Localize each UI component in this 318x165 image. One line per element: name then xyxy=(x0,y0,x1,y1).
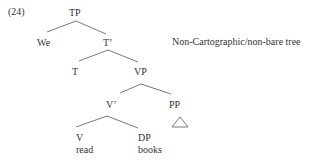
node-t-bar: T’ xyxy=(103,38,112,48)
node-vp: VP xyxy=(134,67,147,77)
example-number: (24) xyxy=(8,7,25,17)
tree-branches xyxy=(0,0,318,165)
node-t: T xyxy=(72,67,78,77)
node-v: V xyxy=(76,133,83,143)
triangle-icon xyxy=(172,117,188,127)
node-dp: DP xyxy=(138,133,151,143)
node-tp: TP xyxy=(69,8,81,18)
leaf-books: books xyxy=(138,145,162,155)
tree-caption: Non-Cartographic/non-bare tree xyxy=(172,37,301,47)
node-v-bar: V’ xyxy=(106,100,117,110)
leaf-read: read xyxy=(76,145,93,155)
node-we: We xyxy=(37,38,50,48)
node-pp: PP xyxy=(169,100,180,110)
